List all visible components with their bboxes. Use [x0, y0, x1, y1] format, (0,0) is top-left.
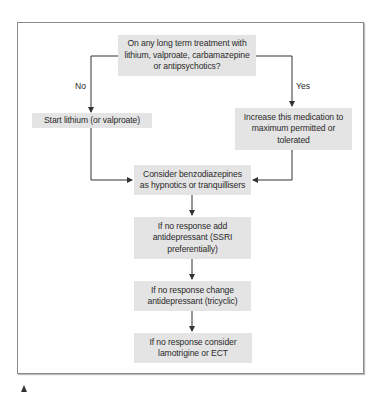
edge-label-no: No — [75, 81, 86, 91]
triangle-marker-icon — [21, 385, 27, 392]
node-start-lithium: Start lithium (or valproate) — [32, 113, 152, 128]
node-increase-medication: Increase this medication to maximum perm… — [235, 108, 352, 150]
node-change-tricyclic: If no response change antidepressant (tr… — [134, 281, 251, 311]
node-benzodiazepines: Consider benzodiazepines as hypnotics or… — [134, 165, 251, 195]
node-lamotrigine-ect: If no response consider lamotrigine or E… — [134, 333, 252, 363]
node-add-ssri: If no response add antidepressant (SSRI … — [134, 217, 251, 259]
edge-label-yes: Yes — [296, 81, 310, 91]
node-question: On any long term treatment with lithium,… — [118, 35, 256, 76]
